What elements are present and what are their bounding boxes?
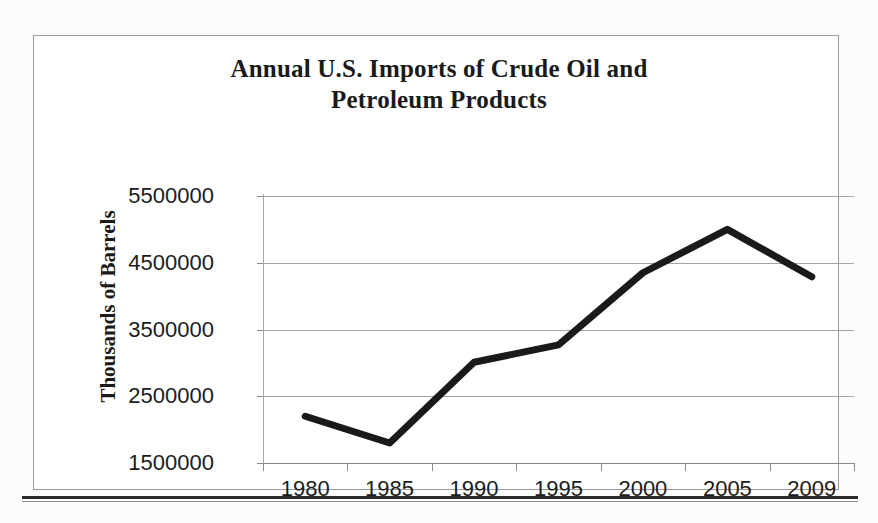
line-series-chart: [263, 196, 854, 463]
chart-title: Annual U.S. Imports of Crude Oil and Pet…: [154, 53, 724, 115]
y-axis-label-1500000: 1500000: [54, 450, 214, 476]
y-axis-label-5500000: 5500000: [54, 183, 214, 209]
chart-title-line-1: Annual U.S. Imports of Crude Oil and: [154, 53, 724, 84]
page-horizontal-rule-secondary: [22, 501, 858, 502]
x-tick-3: [516, 463, 517, 471]
chart-title-line-2: Petroleum Products: [154, 84, 724, 115]
x-axis-line: [263, 463, 854, 464]
x-tick-4: [601, 463, 602, 471]
x-tick-1: [347, 463, 348, 471]
plot-area: 5500000 4500000 3500000 2500000 1500000: [263, 196, 854, 463]
scanned-page: Annual U.S. Imports of Crude Oil and Pet…: [0, 0, 878, 523]
x-tick-7: [854, 463, 855, 471]
series-line-crude-oil-imports: [305, 229, 812, 443]
y-axis-label-4500000: 4500000: [54, 250, 214, 276]
y-axis-label-3500000: 3500000: [54, 317, 214, 343]
page-horizontal-rule: [22, 496, 858, 499]
x-tick-6: [770, 463, 771, 471]
x-tick-0: [263, 463, 264, 471]
chart-frame: Annual U.S. Imports of Crude Oil and Pet…: [33, 35, 839, 490]
x-tick-2: [432, 463, 433, 471]
x-tick-5: [685, 463, 686, 471]
y-axis-label-2500000: 2500000: [54, 383, 214, 409]
